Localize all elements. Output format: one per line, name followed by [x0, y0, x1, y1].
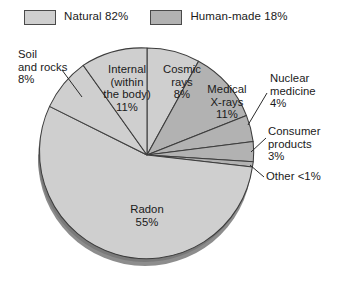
label-medical-xrays: Medical X-rays 11% [203, 83, 251, 121]
pie-chart-figure: Natural 82% Human-made 18% [0, 0, 343, 281]
label-soil-and-rocks: Soil and rocks 8% [18, 48, 67, 86]
label-internal-body: Internal (within the body) 11% [96, 63, 158, 113]
label-consumer-products: Consumer products 3% [268, 125, 321, 163]
label-radon: Radon 55% [108, 203, 186, 228]
label-other: Other <1% [266, 170, 321, 183]
label-cosmic-rays: Cosmic rays 8% [160, 63, 204, 101]
chart-plot-area: Soil and rocks 8% Internal (within the b… [0, 0, 343, 281]
label-nuclear-medicine: Nuclear medicine 4% [270, 72, 316, 110]
